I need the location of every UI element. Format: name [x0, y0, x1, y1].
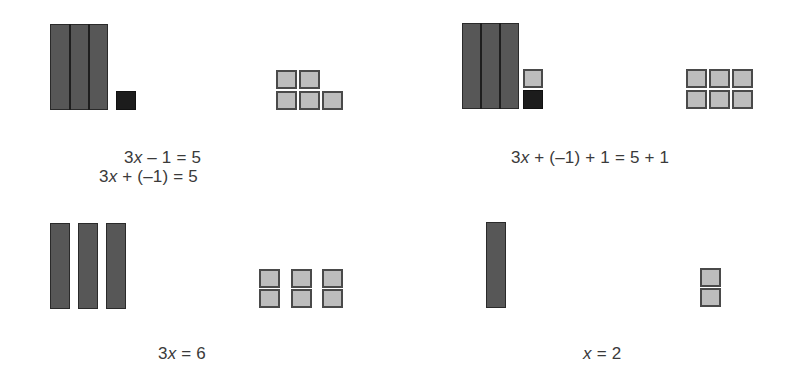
- positive-unit-tile: [709, 69, 730, 88]
- positive-unit-tile: [291, 269, 312, 288]
- positive-unit-tile: [322, 91, 343, 110]
- equation-coefficient: 3: [99, 167, 109, 186]
- positive-unit-tile: [686, 69, 707, 88]
- positive-unit-tile: [299, 91, 320, 110]
- x-tile: [50, 223, 70, 309]
- x-tile: [462, 23, 519, 109]
- positive-unit-tile: [700, 288, 721, 307]
- equation-line: 3x = 6: [158, 344, 206, 364]
- equation-rest: = 6: [176, 344, 206, 363]
- positive-unit-tile: [276, 91, 297, 110]
- positive-unit-tile: [732, 69, 753, 88]
- equation-coefficient: 3: [124, 148, 134, 167]
- equation-line: 3x + (–1) + 1 = 5 + 1: [511, 148, 669, 168]
- x-tile: [106, 223, 126, 309]
- x-tile-divider: [499, 23, 501, 109]
- equation-line: 3x + (–1) = 5: [99, 167, 198, 187]
- x-tile: [78, 223, 98, 309]
- negative-unit-tile: [523, 90, 543, 109]
- equation-line: 3x – 1 = 5: [124, 148, 201, 168]
- positive-unit-tile: [700, 268, 721, 287]
- equation-coefficient: 3: [511, 148, 521, 167]
- x-tile-divider: [480, 23, 482, 109]
- equation-rest: + (–1) + 1 = 5 + 1: [529, 148, 669, 167]
- equation-rest: + (–1) = 5: [117, 167, 198, 186]
- equation-line: x = 2: [583, 344, 621, 364]
- positive-unit-tile: [686, 90, 707, 109]
- positive-unit-tile: [291, 289, 312, 308]
- positive-unit-tile: [523, 69, 543, 88]
- x-tile-divider: [88, 24, 90, 110]
- positive-unit-tile: [709, 90, 730, 109]
- positive-unit-tile: [259, 269, 280, 288]
- x-tile: [50, 24, 108, 110]
- positive-unit-tile: [732, 90, 753, 109]
- positive-unit-tile: [322, 269, 343, 288]
- x-tile-divider: [69, 24, 71, 110]
- x-tile: [486, 222, 506, 308]
- positive-unit-tile: [259, 289, 280, 308]
- negative-unit-tile: [116, 91, 136, 110]
- positive-unit-tile: [322, 289, 343, 308]
- equation-coefficient: 3: [158, 344, 168, 363]
- positive-unit-tile: [276, 70, 297, 89]
- equation-rest: – 1 = 5: [142, 148, 201, 167]
- equation-rest: = 2: [592, 344, 622, 363]
- equation-variable: x: [583, 344, 592, 363]
- positive-unit-tile: [299, 70, 320, 89]
